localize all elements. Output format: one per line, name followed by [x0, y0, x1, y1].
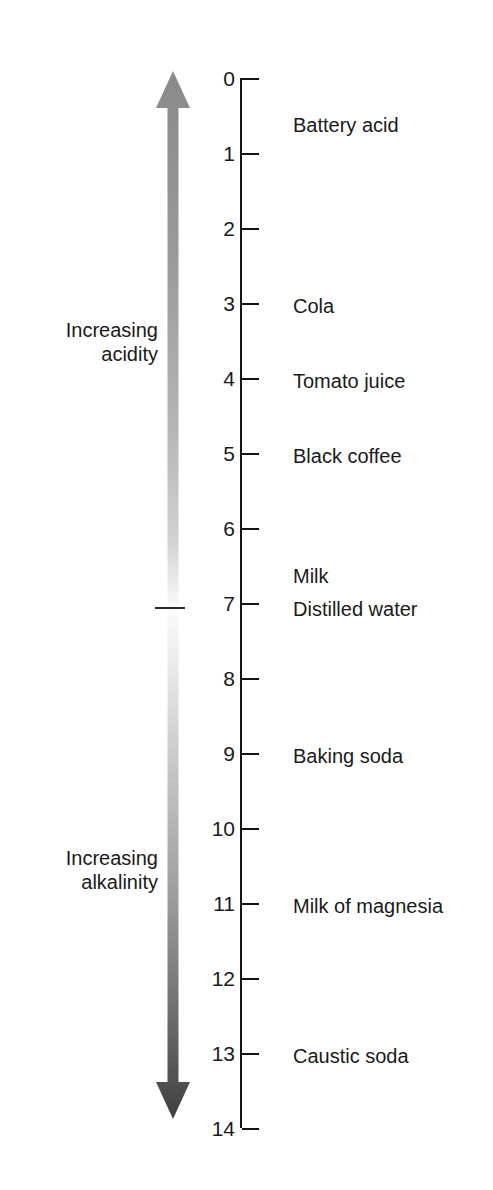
- axis-tick-label-12: 12: [175, 968, 235, 989]
- substance-label-distilled-water: Distilled water: [293, 599, 417, 619]
- axis-tick-label-6: 6: [175, 518, 235, 539]
- substance-label-baking-soda: Baking soda: [293, 746, 403, 766]
- increasing-alkalinity-label: Increasing alkalinity: [8, 846, 158, 894]
- axis-tick-10: [242, 828, 259, 830]
- axis-tick-12: [242, 978, 259, 980]
- substance-label-black-coffee: Black coffee: [293, 446, 402, 466]
- axis-tick-0: [242, 78, 259, 80]
- axis-tick-label-14: 14: [175, 1118, 235, 1139]
- axis-tick-14: [242, 1128, 259, 1130]
- axis-tick-label-7: 7: [175, 593, 235, 614]
- axis-tick-label-13: 13: [175, 1043, 235, 1064]
- axis-tick-label-9: 9: [175, 743, 235, 764]
- axis-tick-11: [242, 903, 259, 905]
- axis-tick-label-8: 8: [175, 668, 235, 689]
- axis-tick-6: [242, 528, 259, 530]
- axis-tick-label-11: 11: [175, 893, 235, 914]
- increasing-alkalinity-line1: Increasing: [8, 846, 158, 870]
- substance-label-battery-acid: Battery acid: [293, 115, 399, 135]
- axis-tick-3: [242, 303, 259, 305]
- substance-label-cola: Cola: [293, 296, 334, 316]
- axis-tick-2: [242, 228, 259, 230]
- axis-tick-8: [242, 678, 259, 680]
- axis-tick-label-4: 4: [175, 368, 235, 389]
- axis-tick-label-2: 2: [175, 218, 235, 239]
- axis-tick-4: [242, 378, 259, 380]
- axis-tick-9: [242, 753, 259, 755]
- axis-tick-label-5: 5: [175, 443, 235, 464]
- axis-tick-7: [242, 603, 259, 605]
- substance-label-milk: Milk: [293, 566, 329, 586]
- axis-tick-5: [242, 453, 259, 455]
- substance-label-milk-of-magnesia: Milk of magnesia: [293, 896, 443, 916]
- ph-scale-figure: 0 1 2 3 4 5 6 7 8 9 10 11 12 13 14 Incre…: [0, 0, 493, 1190]
- axis-tick-label-3: 3: [175, 293, 235, 314]
- axis-tick-label-10: 10: [175, 818, 235, 839]
- increasing-acidity-line1: Increasing: [8, 318, 158, 342]
- axis-tick-13: [242, 1053, 259, 1055]
- axis-tick-label-0: 0: [175, 68, 235, 89]
- substance-label-caustic-soda: Caustic soda: [293, 1046, 409, 1066]
- increasing-alkalinity-line2: alkalinity: [8, 870, 158, 894]
- axis-tick-label-1: 1: [175, 143, 235, 164]
- substance-label-tomato-juice: Tomato juice: [293, 371, 405, 391]
- acidity-alkalinity-gradient-arrow: [0, 0, 493, 1190]
- increasing-acidity-label: Increasing acidity: [8, 318, 158, 366]
- axis-tick-1: [242, 153, 259, 155]
- increasing-acidity-line2: acidity: [8, 342, 158, 366]
